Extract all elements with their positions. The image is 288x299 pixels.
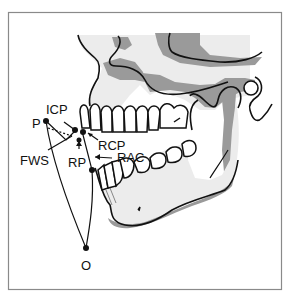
label-o: O (81, 258, 91, 273)
jaw-diagram-figure: P ICP FWS RP RCP RAC O (0, 0, 288, 299)
point-icp (72, 127, 78, 133)
point-o (83, 245, 89, 251)
point-p (43, 118, 49, 124)
label-fws: FWS (20, 153, 49, 168)
label-rac: RAC (117, 150, 144, 165)
label-icp: ICP (46, 102, 68, 117)
point-rcp (80, 129, 86, 135)
label-p: P (32, 116, 41, 131)
label-rp: RP (68, 155, 86, 170)
upper-teeth (80, 104, 188, 132)
point-rp (77, 138, 82, 143)
point-rac (89, 167, 95, 173)
